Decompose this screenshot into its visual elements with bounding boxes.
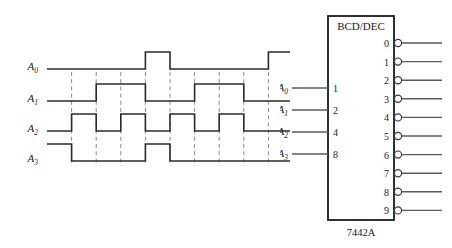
output-number-4: 4	[384, 112, 389, 123]
input-weight-2: 2	[333, 105, 338, 116]
waveform-a3	[47, 144, 290, 161]
input-label-a3: A3	[280, 147, 288, 162]
input-weight-1: 1	[333, 83, 338, 94]
chip-part-number: 7442A	[347, 227, 376, 238]
output-inversion-bubble-8	[394, 188, 401, 195]
input-label-a1: A1	[280, 103, 288, 118]
output-number-5: 5	[384, 131, 389, 142]
output-inversion-bubble-7	[394, 170, 401, 177]
output-number-7: 7	[384, 168, 389, 179]
output-number-3: 3	[384, 94, 389, 105]
output-number-8: 8	[384, 187, 389, 198]
bcd-decoder-symbol: BCD/DEC 7442A A01A12A24A38 0123456789	[280, 0, 452, 248]
output-number-0: 0	[384, 38, 389, 49]
input-label-a0: A0	[280, 81, 288, 96]
output-inversion-bubble-5	[394, 132, 401, 139]
figure-canvas: A0A1A2A3 BCD/DEC 7442A A01A12A24A38 0123…	[0, 0, 452, 248]
input-weight-8: 8	[333, 149, 338, 160]
output-number-1: 1	[384, 57, 389, 68]
output-number-2: 2	[384, 75, 389, 86]
output-inversion-bubble-0	[394, 39, 401, 46]
output-inversion-bubble-2	[394, 77, 401, 84]
waveform-a0	[47, 52, 290, 69]
output-inversion-bubble-4	[394, 114, 401, 121]
waveform-label-a3: A3	[27, 152, 39, 167]
output-inversion-bubble-9	[394, 207, 401, 214]
input-weight-4: 4	[333, 127, 338, 138]
chip-title: BCD/DEC	[337, 20, 385, 32]
timing-signal-labels: A0A1A2A3	[27, 60, 39, 167]
output-number-6: 6	[384, 150, 389, 161]
waveform-label-a1: A1	[27, 92, 38, 107]
output-inversion-bubble-3	[394, 95, 401, 102]
input-label-a2: A2	[280, 125, 288, 140]
waveform-label-a2: A2	[27, 122, 39, 137]
output-inversion-bubble-6	[394, 151, 401, 158]
waveform-label-a0: A0	[27, 60, 39, 75]
output-number-9: 9	[384, 205, 389, 216]
waveform-a1	[47, 84, 290, 101]
timing-diagram: A0A1A2A3	[0, 0, 290, 248]
output-inversion-bubble-1	[394, 58, 401, 65]
timing-waveforms	[47, 52, 290, 161]
waveform-a2	[47, 114, 290, 131]
